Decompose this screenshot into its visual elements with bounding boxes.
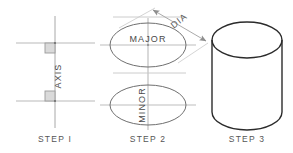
cylinder-construction-drawing: AXIS STEP I MAJOR DIA MINOR STEP 2 — [0, 0, 293, 153]
step-1-label: STEP I — [38, 134, 72, 144]
step2-major-label: MAJOR — [130, 34, 167, 44]
step-3-group: STEP 3 — [212, 22, 282, 144]
step-3-label: STEP 3 — [229, 134, 265, 144]
step-1-group: AXIS STEP I — [16, 16, 95, 144]
step2-dia-left-extension-line — [119, 8, 155, 28]
step1-upper-right-angle-square — [45, 43, 55, 53]
technical-drawing-canvas: AXIS STEP I MAJOR DIA MINOR STEP 2 — [0, 0, 293, 153]
step2-dia-label: DIA — [169, 11, 190, 30]
step1-lower-center-point — [54, 100, 56, 102]
step3-cylinder-bottom-arc — [212, 112, 282, 130]
step-2-group: MAJOR DIA MINOR STEP 2 — [100, 8, 208, 144]
step2-major-center-point — [147, 44, 149, 46]
step2-dia-right-extension-line — [178, 43, 208, 63]
step1-axis-label: AXIS — [53, 64, 63, 89]
step-2-label: STEP 2 — [130, 134, 166, 144]
step2-minor-label: MINOR — [137, 87, 147, 123]
step3-cylinder-top-ellipse — [212, 22, 282, 58]
step1-upper-center-point — [54, 42, 56, 44]
step1-lower-right-angle-square — [45, 91, 55, 101]
